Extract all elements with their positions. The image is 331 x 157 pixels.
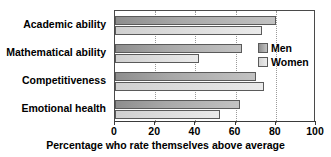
category-label: Competitiveness xyxy=(22,75,106,86)
x-axis-tick-label: 100 xyxy=(306,126,324,137)
x-axis-tick-label: 20 xyxy=(148,126,160,137)
category-label: Emotional health xyxy=(21,103,106,114)
x-axis-tick-label: 0 xyxy=(111,126,117,137)
bar-men-mathematical-ability xyxy=(115,44,242,53)
legend-item-women: Women xyxy=(258,55,309,69)
bar-women-mathematical-ability xyxy=(115,54,199,63)
bar-men-academic-ability xyxy=(115,16,276,25)
category-label: Academic ability xyxy=(23,19,106,30)
x-axis-tick-label: 80 xyxy=(269,126,281,137)
chart-legend: Men Women xyxy=(258,41,309,69)
bar-women-competitiveness xyxy=(115,82,264,91)
x-axis-tick-label: 60 xyxy=(229,126,241,137)
x-axis-tick-label: 40 xyxy=(189,126,201,137)
x-axis-title: Percentage who rate themselves above ave… xyxy=(0,140,331,151)
legend-swatch-men-icon xyxy=(258,43,268,53)
category-label: Mathematical ability xyxy=(6,47,106,58)
bar-women-academic-ability xyxy=(115,26,262,35)
legend-label-men: Men xyxy=(271,43,292,54)
legend-swatch-women-icon xyxy=(258,57,268,67)
legend-item-men: Men xyxy=(258,41,309,55)
bar-women-emotional-health xyxy=(115,110,220,119)
bar-men-emotional-health xyxy=(115,100,240,109)
bar-men-competitiveness xyxy=(115,72,256,81)
category-axis-labels: Academic abilityMathematical abilityComp… xyxy=(0,10,108,122)
x-axis-line xyxy=(114,121,316,122)
legend-label-women: Women xyxy=(271,57,309,68)
bar-chart: Academic abilityMathematical abilityComp… xyxy=(0,0,331,157)
